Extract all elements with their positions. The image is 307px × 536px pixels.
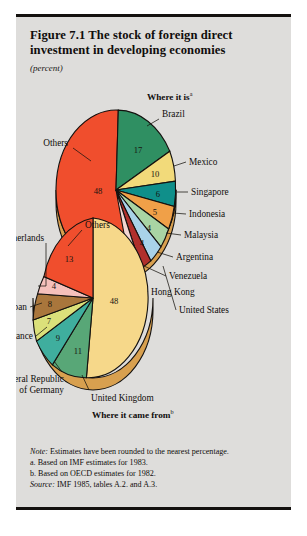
top-value-mexico: 10 [151,169,160,179]
bottom-value-japan: 8 [48,299,52,309]
bottom-value-united-states: 48 [110,296,119,306]
footnote-b: b. Based on OECD estimates for 1982. [30,468,282,479]
figure-notes: Note: Estimates have been rounded to the… [30,446,282,491]
leader-mexico [174,162,186,166]
label-germany-line2: of Germany [19,385,64,395]
label-singapore: Singapore [191,187,229,197]
source-text: IMF 1985, tables A.2. and A.3. [55,480,157,489]
label-netherlands: Netherlands [16,233,44,243]
top-value-brazil: 17 [134,145,143,155]
bottom-value-united-kingdom: 11 [74,346,82,356]
source-label: Source: [30,480,55,489]
label-mexico: Mexico [189,157,218,167]
footnote-a: a. Based on IMF estimates for 1983. [30,457,282,468]
leader-venezuela [144,266,166,276]
label-indonesia: Indonesia [189,209,225,219]
pie-charts: 48 17 10 6 5 4 4 3 3 [16,14,291,510]
note-text: Estimates have been rounded to the neare… [48,447,229,456]
label-venezuela: Venezuela [169,271,207,281]
label-france: France [16,331,33,341]
label-others-top: Others [43,138,68,148]
label-argentina: Argentina [176,252,213,262]
bottom-value-france: 7 [47,316,52,326]
label-united-kingdom: United Kingdom [91,393,155,403]
figure-inner: Figure 7.1 The stock of foreign direct i… [16,14,291,510]
label-others-bottom: Others [85,220,110,230]
bottom-value-germany: 9 [56,333,60,343]
top-value-malaysia: 4 [147,223,152,233]
note-label: Note: [30,447,48,456]
label-japan: Japan [16,302,27,312]
top-value-indonesia: 5 [153,207,157,217]
top-value-argentina: 4 [140,238,145,248]
label-hong-kong: Hong Kong [151,287,195,297]
label-malaysia: Malaysia [184,230,218,240]
bottom-value-others: 13 [65,254,74,264]
bottom-value-netherlands: 4 [52,281,57,291]
top-value-others: 48 [94,186,103,196]
label-brazil: Brazil [162,109,185,119]
label-germany-line1: Federal Republic [16,374,64,384]
source-line: Source: IMF 1985, tables A.2. and A.3. [30,479,282,490]
label-united-states: United States [179,305,229,315]
bottom-pie-chart: 48 11 9 7 8 4 13 Others Nether [16,218,155,403]
figure-page: Figure 7.1 The stock of foreign direct i… [0,0,307,536]
top-value-singapore: 6 [156,189,161,199]
figure-panel: Figure 7.1 The stock of foreign direct i… [16,14,291,510]
note-line: Note: Estimates have been rounded to the… [30,446,282,457]
